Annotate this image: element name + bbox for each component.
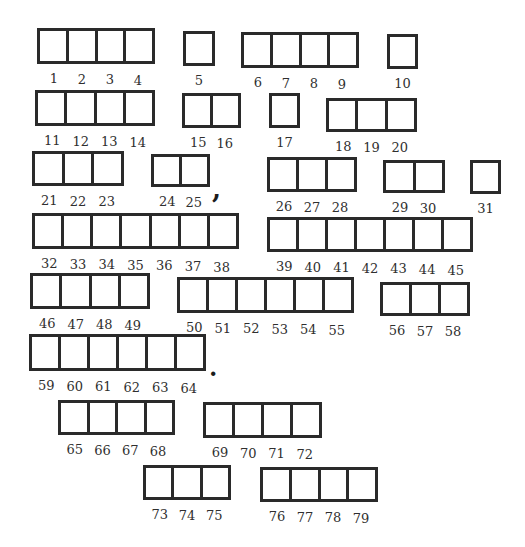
letter-cell[interactable] — [383, 285, 412, 313]
word-group — [143, 465, 231, 500]
letter-cell[interactable] — [126, 31, 152, 61]
cell-number: 59 — [38, 379, 55, 392]
cell-number: 31 — [477, 202, 494, 215]
cell-number: 66 — [94, 444, 111, 457]
letter-cell[interactable] — [349, 470, 375, 499]
letter-cell[interactable] — [264, 405, 293, 435]
word-group — [203, 402, 322, 438]
letter-cell[interactable] — [93, 216, 122, 246]
cell-number: 45 — [447, 264, 464, 277]
letter-cell[interactable] — [386, 220, 415, 249]
letter-cell[interactable] — [90, 337, 119, 368]
letter-cell[interactable] — [35, 154, 65, 183]
letter-cell[interactable] — [119, 337, 148, 368]
letter-cell[interactable] — [69, 31, 98, 61]
letter-cell[interactable] — [358, 101, 387, 129]
letter-cell[interactable] — [213, 96, 238, 125]
letter-cell[interactable] — [416, 163, 443, 190]
letter-cell[interactable] — [186, 34, 212, 63]
letter-cell[interactable] — [357, 220, 386, 249]
cell-number: 27 — [304, 201, 321, 214]
letter-cell[interactable] — [238, 280, 267, 310]
cell-number: 65 — [67, 443, 84, 456]
letter-cell[interactable] — [444, 220, 470, 249]
letter-cell[interactable] — [62, 276, 91, 306]
letter-cell[interactable] — [121, 276, 147, 306]
letter-cell[interactable] — [92, 276, 121, 306]
cell-number: 75 — [206, 509, 223, 522]
letter-cell[interactable] — [299, 160, 328, 189]
word-group — [260, 467, 378, 502]
letter-cell[interactable] — [210, 216, 236, 246]
letter-cell[interactable] — [65, 154, 95, 183]
letter-cell[interactable] — [330, 35, 356, 65]
letter-cell[interactable] — [203, 468, 228, 497]
letter-cell[interactable] — [473, 163, 498, 191]
letter-cell[interactable] — [209, 280, 238, 310]
letter-cell[interactable] — [33, 276, 62, 306]
letter-cell[interactable] — [328, 220, 357, 249]
letter-cell[interactable] — [146, 468, 174, 497]
letter-cell[interactable] — [40, 31, 69, 61]
letter-cell[interactable] — [154, 157, 182, 184]
letter-cell[interactable] — [61, 337, 90, 368]
letter-cell[interactable] — [270, 160, 299, 189]
letter-cell[interactable] — [296, 280, 325, 310]
letter-cell[interactable] — [38, 93, 67, 123]
letter-cell[interactable] — [321, 470, 350, 499]
letter-cell[interactable] — [98, 31, 127, 61]
letter-cell[interactable] — [185, 96, 213, 125]
letter-cell[interactable] — [148, 337, 177, 368]
letter-cell[interactable] — [328, 160, 354, 189]
letter-cell[interactable] — [147, 403, 173, 432]
letter-cell[interactable] — [329, 101, 358, 129]
letter-cell[interactable] — [270, 220, 299, 249]
letter-cell[interactable] — [390, 37, 415, 66]
letter-cell[interactable] — [177, 337, 203, 368]
letter-cell[interactable] — [61, 403, 90, 432]
letter-cell[interactable] — [35, 216, 64, 246]
letter-cell[interactable] — [299, 220, 328, 249]
cell-number: 74 — [179, 509, 196, 522]
letter-cell[interactable] — [272, 96, 297, 125]
letter-cell[interactable] — [388, 101, 414, 129]
letter-cell[interactable] — [292, 470, 321, 499]
cell-number: 36 — [156, 259, 173, 272]
letter-cell[interactable] — [126, 93, 152, 123]
letter-cell[interactable] — [244, 35, 273, 65]
cell-number: 37 — [185, 260, 202, 273]
letter-cell[interactable] — [122, 216, 151, 246]
letter-cell[interactable] — [180, 280, 209, 310]
letter-cell[interactable] — [386, 163, 416, 190]
letter-cell[interactable] — [273, 35, 302, 65]
letter-cell[interactable] — [267, 280, 296, 310]
letter-cell[interactable] — [235, 405, 264, 435]
letter-cell[interactable] — [293, 405, 319, 435]
letter-cell[interactable] — [174, 468, 202, 497]
cell-number: 32 — [41, 257, 58, 270]
word-group — [177, 277, 354, 313]
letter-box-puzzle: 1234567891011121314151617181920212223242… — [0, 0, 525, 547]
letter-cell[interactable] — [325, 280, 351, 310]
letter-cell[interactable] — [97, 93, 126, 123]
letter-cell[interactable] — [302, 35, 331, 65]
cell-number: 29 — [392, 201, 409, 214]
cell-number: 11 — [44, 134, 61, 147]
letter-cell[interactable] — [263, 470, 292, 499]
cell-number: 52 — [243, 322, 260, 335]
letter-cell[interactable] — [118, 403, 147, 432]
letter-cell[interactable] — [182, 157, 207, 184]
letter-cell[interactable] — [94, 154, 121, 183]
letter-cell[interactable] — [90, 403, 119, 432]
letter-cell[interactable] — [32, 337, 61, 368]
cell-number: 54 — [300, 323, 317, 336]
letter-cell[interactable] — [412, 285, 441, 313]
cell-number: 23 — [98, 195, 115, 208]
letter-cell[interactable] — [206, 405, 235, 435]
letter-cell[interactable] — [64, 216, 93, 246]
letter-cell[interactable] — [181, 216, 210, 246]
letter-cell[interactable] — [67, 93, 96, 123]
letter-cell[interactable] — [152, 216, 181, 246]
letter-cell[interactable] — [415, 220, 444, 249]
letter-cell[interactable] — [441, 285, 467, 313]
